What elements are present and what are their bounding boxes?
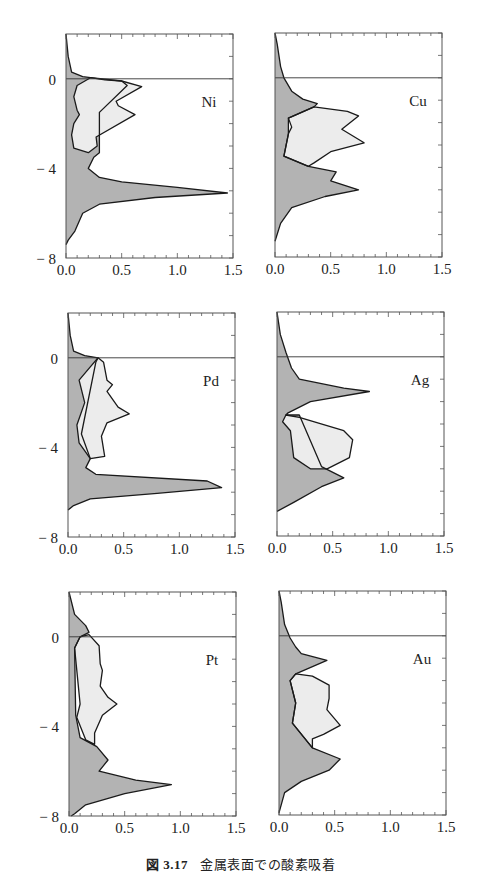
x-tick-label: 0.0 <box>59 541 78 557</box>
x-tick-label: 0.5 <box>323 540 342 556</box>
x-tick-label: 1.0 <box>170 541 189 557</box>
x-tick-label: 0.0 <box>268 540 287 556</box>
caption-text: 金属表面での酸素吸着 <box>200 857 335 872</box>
panel-ag: 0.00.51.01.5Ag <box>268 312 454 556</box>
x-tick-label: 1.0 <box>171 820 190 836</box>
x-tick-label: 1.5 <box>226 541 245 557</box>
metal-label: Ag <box>411 372 430 388</box>
panel-cu: 0.00.51.01.5Cu <box>266 33 452 277</box>
panel-pd: 0.00.51.01.50− 4− 8Pd <box>38 313 244 557</box>
y-tick-label: − 4 <box>39 719 59 735</box>
y-tick-label: 0 <box>51 351 59 367</box>
x-tick-label: 1.5 <box>433 261 452 277</box>
metal-label: Cu <box>409 93 427 109</box>
light-area <box>284 107 364 166</box>
metal-label: Au <box>413 651 432 667</box>
x-tick-label: 1.5 <box>224 262 243 278</box>
metal-label: Pt <box>206 652 219 668</box>
x-tick-label: 0.5 <box>112 262 131 278</box>
x-tick-label: 0.5 <box>115 820 134 836</box>
y-tick-label: − 4 <box>38 440 58 456</box>
panel-pt: 0.00.51.01.50− 4− 8Pt <box>39 592 245 836</box>
metal-label: Pd <box>203 373 219 389</box>
panel-ni: 0.00.51.01.50− 4− 8Ni <box>36 34 242 278</box>
x-tick-label: 0.0 <box>270 819 289 835</box>
x-tick-label: 1.0 <box>379 540 398 556</box>
y-tick-label: 0 <box>52 630 60 646</box>
x-tick-label: 1.5 <box>435 540 454 556</box>
x-tick-label: 1.0 <box>377 261 396 277</box>
light-area <box>72 78 142 153</box>
x-tick-label: 0.5 <box>114 541 133 557</box>
caption-number: 図 3.17 <box>146 857 188 872</box>
y-tick-label: − 8 <box>39 809 59 825</box>
figure-panels: 0.00.51.01.50− 4− 8Ni0.00.51.01.5Cu0.00.… <box>0 0 481 876</box>
x-tick-label: 0.0 <box>266 261 285 277</box>
x-tick-label: 0.5 <box>325 819 344 835</box>
y-tick-label: − 4 <box>36 161 56 177</box>
x-tick-label: 1.5 <box>227 820 246 836</box>
x-tick-label: 0.0 <box>60 820 79 836</box>
x-tick-label: 0.0 <box>57 262 76 278</box>
y-tick-label: 0 <box>49 72 57 88</box>
x-tick-label: 0.5 <box>321 261 340 277</box>
y-tick-label: − 8 <box>38 530 58 546</box>
y-tick-label: − 8 <box>36 251 56 267</box>
metal-label: Ni <box>202 94 217 110</box>
light-area <box>75 635 117 745</box>
x-tick-label: 1.5 <box>437 819 456 835</box>
x-tick-label: 1.0 <box>168 262 187 278</box>
panel-au: 0.00.51.01.5Au <box>270 591 456 835</box>
x-tick-label: 1.0 <box>381 819 400 835</box>
figure-caption: 図 3.17金属表面での酸素吸着 <box>0 854 481 873</box>
